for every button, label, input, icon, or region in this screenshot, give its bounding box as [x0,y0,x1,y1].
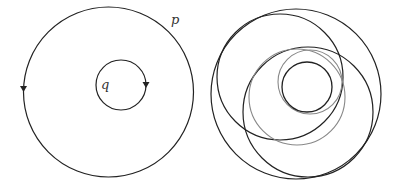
outer-circle-p [24,7,194,177]
left-figure: p q [20,7,194,177]
diagram-canvas: p q [0,0,399,186]
upper-left-circle [217,14,343,140]
arrow-down-icon [20,86,27,92]
arrow-down-icon [143,82,150,88]
outer-circle [211,9,381,179]
label-p: p [171,12,180,27]
inner-circle [282,62,332,112]
label-q: q [101,77,109,92]
gray-small-circle [278,50,342,114]
right-figure [211,9,381,179]
